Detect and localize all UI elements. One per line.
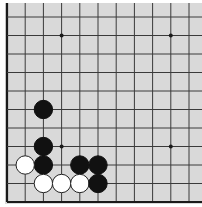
white-stone <box>52 174 70 192</box>
star-point-icon <box>60 145 64 149</box>
white-stone <box>71 174 89 192</box>
black-stone <box>34 100 52 118</box>
go-board <box>0 0 202 207</box>
black-stone <box>34 156 52 174</box>
star-point-icon <box>169 34 173 38</box>
white-stone <box>16 156 34 174</box>
black-stone <box>89 156 107 174</box>
black-stone <box>89 174 107 192</box>
star-point-icon <box>60 34 64 38</box>
black-stone <box>34 137 52 155</box>
black-stone <box>71 156 89 174</box>
star-point-icon <box>169 145 173 149</box>
white-stone <box>34 174 52 192</box>
board-background <box>5 3 202 204</box>
